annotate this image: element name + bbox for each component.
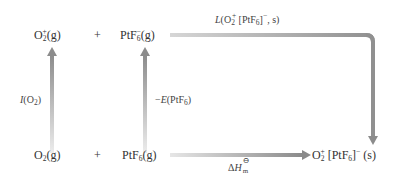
ea-close: ) xyxy=(188,94,191,105)
ionization-arrow xyxy=(47,47,57,153)
top-plus: + xyxy=(94,29,101,41)
lattice-mid: [PtF xyxy=(236,14,256,25)
ionization-close: ) xyxy=(38,94,41,105)
product-part2: [PtF xyxy=(325,148,349,162)
bottom-o2: O2(g) xyxy=(34,149,60,161)
enthalpy-arrow xyxy=(170,150,311,160)
bottom-ptf6: PtF6(g) xyxy=(122,149,156,161)
ptf6-anion-base: PtF xyxy=(120,28,137,42)
enthalpy-symbol: H xyxy=(234,162,241,173)
o2-base: O xyxy=(34,148,43,162)
top-o2-cation: O2+(g) xyxy=(34,29,61,41)
o2-cation-state: (g) xyxy=(47,28,61,42)
enthalpy-scripts: ⊖m xyxy=(242,163,250,173)
o2-state: (g) xyxy=(46,148,60,162)
product-state: (s) xyxy=(360,148,376,162)
ptf6-anion-state: (g) xyxy=(141,28,155,42)
electron-affinity-arrow xyxy=(140,47,150,153)
ptf6-state: (g) xyxy=(142,148,156,162)
lattice-open: (O xyxy=(221,14,232,25)
ionization-open: (O xyxy=(23,94,34,105)
lattice-end: , s) xyxy=(267,14,279,25)
ionization-label: I(O2) xyxy=(20,95,41,105)
top-ptf6-anion: PtF6−(g) xyxy=(120,29,155,41)
enthalpy-label: ΔH⊖m xyxy=(228,163,250,173)
lattice-arrow xyxy=(170,35,378,145)
electron-affinity-label: −E(PtF6) xyxy=(155,95,191,105)
bottom-plus: + xyxy=(94,149,101,161)
lattice-label: L(O2+ [PtF6]−, s) xyxy=(215,15,279,25)
ea-open: (PtF xyxy=(167,94,184,105)
standard-state-icon: ⊖ xyxy=(243,157,250,165)
product-salt: O2+ [PtF6]− (s) xyxy=(312,149,376,161)
ptf6-base: PtF xyxy=(122,148,139,162)
molar-sub: m xyxy=(243,168,248,175)
